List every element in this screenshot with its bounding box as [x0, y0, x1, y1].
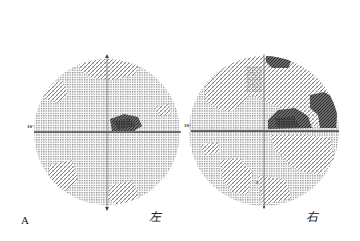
visual-field-plots: [0, 0, 360, 241]
left-eye-field: [34, 54, 181, 211]
right-eye-field: [189, 53, 339, 209]
panel-label: A: [21, 214, 29, 226]
right-eye-label: 右: [306, 207, 318, 225]
right-axis-degree-label: 10°: [184, 123, 191, 128]
left-eye-label: 左: [149, 207, 161, 225]
left-axis-degree-label: 10°: [27, 124, 34, 129]
stimulus-marker: ε: [256, 178, 259, 186]
